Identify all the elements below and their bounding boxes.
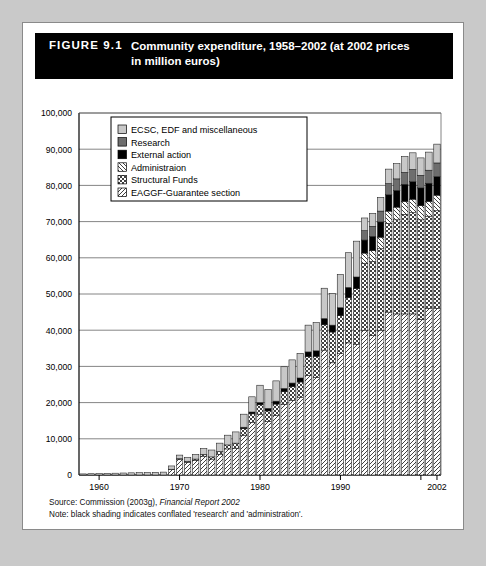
bar-segment <box>394 164 400 179</box>
bar-segment <box>225 435 231 445</box>
bar-segment <box>402 156 408 172</box>
bar-segment <box>321 319 327 325</box>
bar-segment <box>377 211 383 222</box>
bar-segment <box>426 216 432 308</box>
bar-2002 <box>434 144 440 475</box>
bar-segment <box>361 253 367 263</box>
bar-1988 <box>321 288 327 475</box>
bar-2001 <box>426 152 432 475</box>
legend-swatch-1 <box>118 138 127 147</box>
bar-segment <box>321 288 327 318</box>
legend-swatch-5 <box>118 188 127 197</box>
figure-number: FIGURE 9.1 <box>49 39 131 51</box>
bar-segment <box>434 308 440 475</box>
figure-title-line1: Community expenditure, 1958–2002 (at 200… <box>131 40 410 52</box>
bar-segment <box>241 435 247 475</box>
bar-segment <box>402 184 408 201</box>
legend-swatch-4 <box>118 175 127 184</box>
bar-segment <box>168 470 174 475</box>
bar-segment <box>329 293 335 325</box>
bar-segment <box>313 351 319 356</box>
bar-1990 <box>337 274 343 475</box>
figure-frame: FIGURE 9.1Community expenditure, 1958–20… <box>22 22 464 530</box>
xtick-label-1980: 1980 <box>250 482 270 492</box>
bar-1983 <box>281 367 287 475</box>
bar-segment <box>402 214 408 314</box>
bar-segment <box>426 308 432 475</box>
bar-segment <box>273 401 279 404</box>
bar-segment <box>329 332 335 363</box>
bar-segment <box>418 158 424 175</box>
ytick-label-10000: 10,000 <box>46 434 73 444</box>
note-line: Note: black shading indicates conflated … <box>49 509 449 521</box>
bar-segment <box>329 325 335 332</box>
bar-segment <box>394 190 400 207</box>
legend-label-1: Research <box>131 138 170 148</box>
bar-segment <box>418 220 424 320</box>
xtick-label-1970: 1970 <box>170 482 190 492</box>
bar-segment <box>265 421 271 475</box>
bar-segment <box>321 325 327 350</box>
bar-segment <box>273 404 279 416</box>
ytick-label-40000: 40,000 <box>46 326 73 336</box>
bar-segment <box>273 381 279 401</box>
bar-segment <box>434 195 440 211</box>
bar-segment <box>369 226 375 236</box>
bar-1979 <box>249 397 255 475</box>
bar-segment <box>345 287 351 297</box>
bar-segment <box>394 220 400 314</box>
bar-segment <box>104 473 110 475</box>
source-line: Source: Commission (2003g), Financial Re… <box>49 497 449 509</box>
legend-label-4: Structural Funds <box>131 175 198 185</box>
bar-segment <box>217 455 223 475</box>
bar-segment <box>265 390 271 409</box>
bar-1960 <box>96 474 102 475</box>
bar-segment <box>353 277 359 289</box>
bar-segment <box>297 397 303 475</box>
bar-segment <box>241 414 247 427</box>
bar-segment <box>281 404 287 475</box>
bar-2000 <box>418 158 424 475</box>
bar-segment <box>410 199 416 212</box>
bar-segment <box>313 356 319 377</box>
bar-segment <box>369 213 375 226</box>
xtick-label-2002: 2002 <box>427 482 447 492</box>
bar-segment <box>257 385 263 402</box>
bar-segment <box>353 289 359 345</box>
bar-1977 <box>233 432 239 475</box>
bar-segment <box>233 448 239 475</box>
figure-title-line2: in million euros) <box>131 55 220 67</box>
bar-segment <box>192 461 198 475</box>
legend-label-2: External action <box>131 150 191 160</box>
bar-segment <box>385 169 391 183</box>
bar-segment <box>377 249 383 330</box>
bar-1991 <box>345 253 351 475</box>
bar-1966 <box>144 472 150 475</box>
bar-segment <box>394 179 400 191</box>
bar-segment <box>200 449 206 455</box>
bar-segment <box>369 236 375 250</box>
bar-1984 <box>289 360 295 475</box>
bar-segment <box>249 423 255 475</box>
bar-segment <box>144 472 150 475</box>
chart-plot-area: 010,00020,00030,00040,00050,00060,00070,… <box>23 83 465 493</box>
bar-1998 <box>402 156 408 475</box>
bar-segment <box>353 345 359 475</box>
chart-legend: ECSC, EDF and miscellaneousResearchExter… <box>111 117 307 201</box>
bar-segment <box>200 454 206 456</box>
bar-segment <box>410 182 416 199</box>
bar-segment <box>225 445 231 449</box>
bar-segment <box>281 392 287 405</box>
bar-1968 <box>160 472 166 475</box>
bar-segment <box>402 201 408 214</box>
bar-segment <box>426 183 432 201</box>
bar-1972 <box>192 454 198 475</box>
bar-1999 <box>410 153 416 475</box>
bar-segment <box>80 474 86 475</box>
bar-1958 <box>80 474 86 475</box>
bar-segment <box>321 350 327 475</box>
bar-1974 <box>209 450 215 475</box>
bar-segment <box>418 175 424 188</box>
bar-1963 <box>120 473 126 475</box>
bar-segment <box>249 414 255 423</box>
